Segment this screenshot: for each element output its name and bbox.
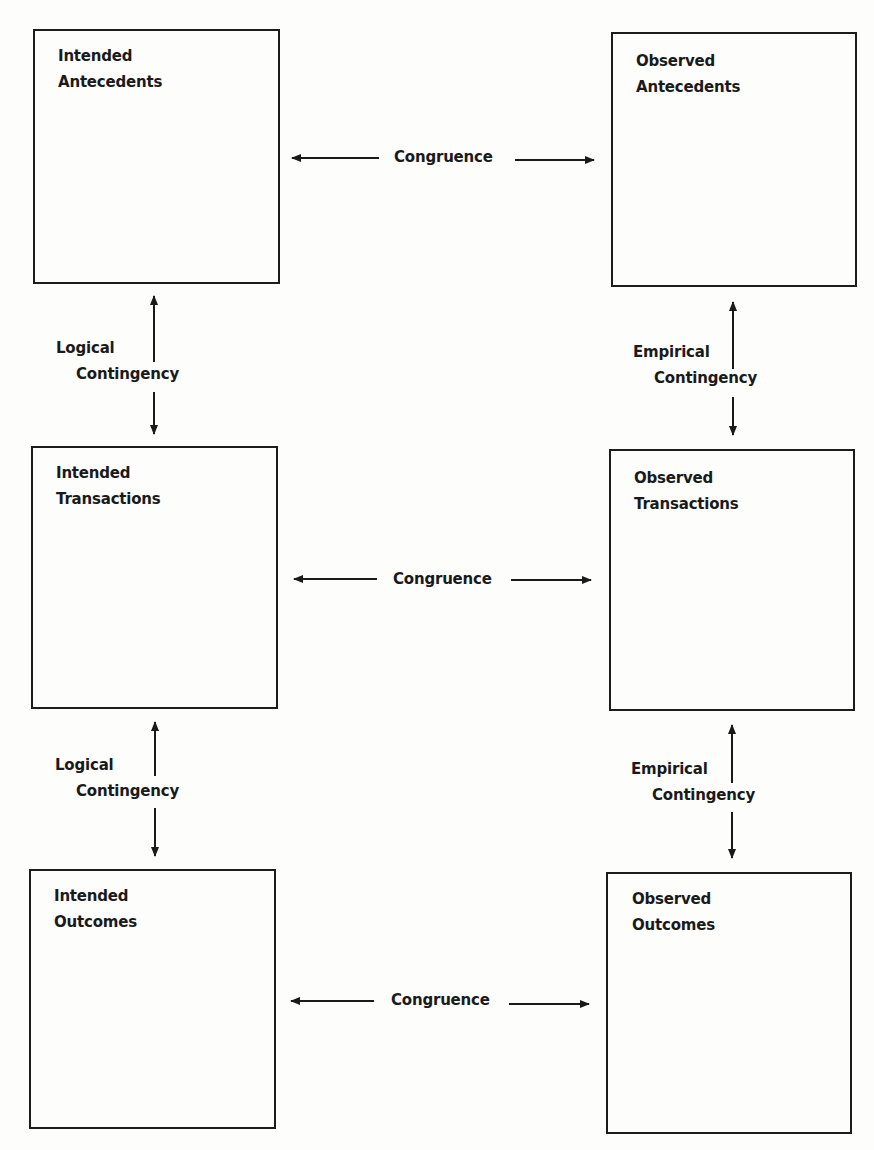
empirical-contingency-1-line1: Empirical <box>633 339 757 365</box>
intended-antecedents-title: Intended Antecedents <box>58 43 162 95</box>
observed-transactions-title: Observed Transactions <box>634 465 739 517</box>
congruence-label-antecedents: Congruence <box>394 144 493 170</box>
intended-outcomes-line1: Intended <box>54 883 137 909</box>
intended-outcomes-title: Intended Outcomes <box>54 883 137 935</box>
intended-transactions-title: Intended Transactions <box>56 460 161 512</box>
observed-transactions-line1: Observed <box>634 465 739 491</box>
empirical-contingency-2-line1: Empirical <box>631 756 755 782</box>
empirical-contingency-label-1: Empirical Contingency <box>633 339 757 391</box>
observed-antecedents-line1: Observed <box>636 48 740 74</box>
congruence-label-outcomes: Congruence <box>391 987 490 1013</box>
logical-contingency-label-1: Logical Contingency <box>56 335 179 387</box>
observed-outcomes-title: Observed Outcomes <box>632 886 715 938</box>
observed-outcomes-line2: Outcomes <box>632 912 715 938</box>
intended-antecedents-line2: Antecedents <box>58 69 162 95</box>
empirical-contingency-1-line2: Contingency <box>633 365 757 391</box>
logical-contingency-1-line2: Contingency <box>56 361 179 387</box>
stake-countenance-diagram: Intended Antecedents Observed Antecedent… <box>0 0 874 1150</box>
logical-contingency-2-line2: Contingency <box>55 778 179 804</box>
empirical-contingency-label-2: Empirical Contingency <box>631 756 755 808</box>
observed-antecedents-title: Observed Antecedents <box>636 48 740 100</box>
observed-antecedents-line2: Antecedents <box>636 74 740 100</box>
observed-outcomes-line1: Observed <box>632 886 715 912</box>
logical-contingency-label-2: Logical Contingency <box>55 752 179 804</box>
empirical-contingency-2-line2: Contingency <box>631 782 755 808</box>
intended-transactions-line1: Intended <box>56 460 161 486</box>
observed-transactions-line2: Transactions <box>634 491 739 517</box>
congruence-label-transactions: Congruence <box>393 566 492 592</box>
intended-antecedents-line1: Intended <box>58 43 162 69</box>
intended-outcomes-line2: Outcomes <box>54 909 137 935</box>
intended-transactions-line2: Transactions <box>56 486 161 512</box>
logical-contingency-2-line1: Logical <box>55 752 179 778</box>
logical-contingency-1-line1: Logical <box>56 335 179 361</box>
